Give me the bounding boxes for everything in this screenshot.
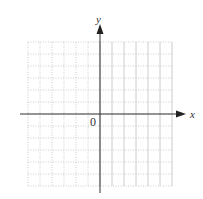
origin-label: 0	[90, 115, 96, 129]
y-axis-arrow-icon	[97, 24, 104, 34]
x-axis-label: x	[189, 108, 195, 120]
coordinate-plane: x y 0	[0, 0, 203, 199]
y-axis-label: y	[95, 13, 101, 25]
x-axis-arrow-icon	[176, 111, 186, 118]
